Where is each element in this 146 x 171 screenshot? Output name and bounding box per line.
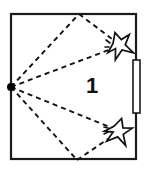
sound-source-point (7, 83, 15, 91)
door-opening (133, 60, 140, 113)
diagram-canvas: 1 (0, 0, 146, 171)
room-number-label: 1 (86, 73, 98, 98)
spark-tick-icon (104, 127, 108, 128)
room-reflection-diagram: 1 (0, 0, 146, 171)
